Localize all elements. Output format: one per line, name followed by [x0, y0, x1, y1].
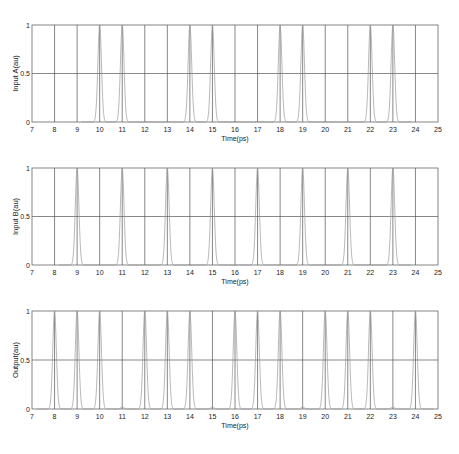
x-tick-label: 20 [321, 413, 329, 420]
x-tick-label: 10 [96, 269, 104, 276]
x-tick-label: 12 [141, 269, 149, 276]
y-tick-label: 0 [26, 406, 30, 413]
x-axis-label: Time(ps) [221, 135, 248, 143]
x-tick-label: 9 [75, 413, 79, 420]
x-tick-label: 23 [389, 269, 397, 276]
x-tick-label: 25 [434, 413, 442, 420]
y-tick-label: 1 [26, 308, 30, 315]
x-tick-label: 8 [53, 413, 57, 420]
x-tick-label: 21 [344, 413, 352, 420]
panel-input-b: 7891011121314151617181920212223242500.51… [11, 165, 442, 287]
x-tick-label: 24 [412, 126, 420, 133]
x-tick-label: 9 [75, 269, 79, 276]
figure: 7891011121314151617181920212223242500.51… [0, 0, 459, 454]
x-axis-label: Time(ps) [221, 278, 248, 286]
x-tick-label: 24 [412, 269, 420, 276]
x-tick-label: 7 [30, 413, 34, 420]
x-tick-label: 14 [186, 269, 194, 276]
x-tick-label: 8 [53, 126, 57, 133]
y-axis-label: Input B(au) [11, 197, 20, 235]
x-tick-label: 16 [231, 269, 239, 276]
x-tick-label: 13 [163, 413, 171, 420]
y-tick-label: 1 [26, 165, 30, 172]
x-tick-label: 22 [366, 413, 374, 420]
x-tick-label: 11 [119, 413, 126, 420]
x-tick-label: 25 [434, 126, 442, 133]
y-tick-label: 0.5 [20, 213, 30, 220]
x-tick-label: 14 [186, 413, 194, 420]
x-tick-label: 9 [75, 126, 79, 133]
x-tick-label: 23 [389, 413, 397, 420]
x-tick-label: 17 [254, 126, 262, 133]
panel-input-a: 7891011121314151617181920212223242500.51… [11, 22, 442, 144]
y-tick-label: 0.5 [20, 357, 30, 364]
x-tick-label: 8 [53, 269, 57, 276]
x-tick-label: 18 [276, 413, 284, 420]
x-tick-label: 15 [209, 269, 217, 276]
x-tick-label: 10 [96, 413, 104, 420]
x-tick-label: 11 [119, 126, 126, 133]
x-tick-label: 17 [254, 413, 262, 420]
x-tick-label: 20 [321, 269, 329, 276]
x-tick-label: 13 [163, 269, 171, 276]
y-tick-label: 0 [26, 119, 30, 126]
y-axis-label: Output(au) [11, 342, 20, 378]
x-tick-label: 10 [96, 126, 104, 133]
x-tick-label: 17 [254, 269, 262, 276]
x-tick-label: 25 [434, 269, 442, 276]
x-tick-label: 14 [186, 126, 194, 133]
x-axis-label: Time(ps) [221, 422, 248, 430]
y-tick-label: 1 [26, 22, 30, 29]
x-tick-label: 7 [30, 269, 34, 276]
x-tick-label: 12 [141, 126, 149, 133]
x-tick-label: 22 [366, 269, 374, 276]
x-tick-label: 15 [209, 126, 217, 133]
x-tick-label: 16 [231, 126, 239, 133]
x-tick-label: 19 [299, 269, 307, 276]
x-tick-label: 21 [344, 269, 352, 276]
x-tick-label: 22 [366, 126, 374, 133]
y-tick-label: 0 [26, 262, 30, 269]
x-tick-label: 23 [389, 126, 397, 133]
x-tick-label: 21 [344, 126, 352, 133]
x-tick-label: 18 [276, 269, 284, 276]
x-tick-label: 19 [299, 413, 307, 420]
x-tick-label: 11 [119, 269, 126, 276]
x-tick-label: 16 [231, 413, 239, 420]
y-axis-label: Input A(au) [11, 55, 20, 92]
x-tick-label: 7 [30, 126, 34, 133]
y-tick-label: 0.5 [20, 70, 30, 77]
x-tick-label: 20 [321, 126, 329, 133]
x-tick-label: 15 [209, 413, 217, 420]
x-tick-label: 18 [276, 126, 284, 133]
x-tick-label: 13 [163, 126, 171, 133]
x-tick-label: 12 [141, 413, 149, 420]
x-tick-label: 19 [299, 126, 307, 133]
panel-output: 7891011121314151617181920212223242500.51… [11, 308, 442, 431]
x-tick-label: 24 [412, 413, 420, 420]
